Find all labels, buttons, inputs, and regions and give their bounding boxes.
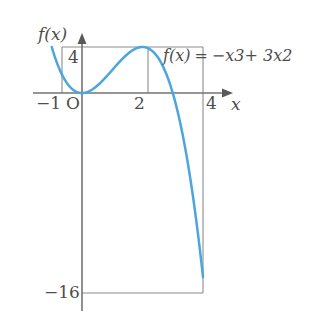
x-tick-label-2: 2 [134, 95, 145, 112]
equation-label: f(x)=−x3+ 3x2 [163, 48, 292, 64]
equation-rhs: −x3+ 3x2 [212, 46, 292, 65]
function-curve [52, 47, 203, 277]
x-tick-label-neg-1: −1 [36, 95, 61, 112]
y-tick-label-neg-16: −16 [44, 284, 80, 301]
function-graph-figure: f(x) 4 −1 O 2 4 x −16 f(x)=−x3+ 3x2 [0, 0, 324, 325]
x-tick-label-4: 4 [206, 95, 217, 112]
y-axis-arrowhead [78, 33, 87, 44]
equation-equals: = [194, 46, 207, 65]
reference-lines [62, 47, 203, 293]
x-axis-label: x [231, 96, 241, 113]
y-axis [78, 33, 87, 311]
equation-lhs: f(x) [163, 46, 190, 65]
y-axis-label: f(x) [38, 26, 67, 43]
origin-label: O [66, 95, 80, 112]
y-tick-label-4: 4 [68, 49, 79, 66]
